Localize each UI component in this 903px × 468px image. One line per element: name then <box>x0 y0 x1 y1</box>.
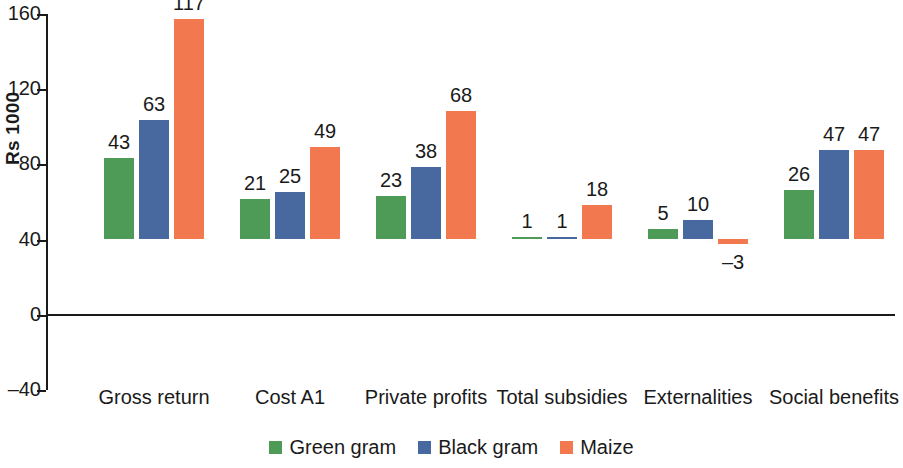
legend-swatch-icon <box>269 441 282 454</box>
bar-value-label: 23 <box>380 170 402 190</box>
x-axis-category-labels: Gross returnCost A1Private profitsTotal … <box>46 386 895 416</box>
bar-group: 510–3 <box>648 14 748 390</box>
bar-value-label: 10 <box>687 194 709 214</box>
bar-value-label: 63 <box>143 94 165 114</box>
bar-groups: 43631172125492338681118510–3264747 <box>46 14 895 390</box>
bar-value-label: 49 <box>314 121 336 141</box>
bar-rect <box>411 167 441 238</box>
bar: 23 <box>376 0 406 314</box>
bar-rect <box>240 199 270 238</box>
y-tick-label: 40 <box>0 228 41 251</box>
legend-item[interactable]: Black gram <box>418 436 538 459</box>
bar: 47 <box>854 0 884 314</box>
bar-group: 4363117 <box>104 14 204 390</box>
bar: 49 <box>310 0 340 314</box>
bar-rect <box>174 19 204 239</box>
bar: 43 <box>104 0 134 314</box>
x-category-label: Gross return <box>98 386 209 409</box>
bar-value-label: 38 <box>415 141 437 161</box>
bar-rect <box>104 158 134 239</box>
y-tick-label: –40 <box>0 378 41 401</box>
x-category-label: Private profits <box>365 386 487 409</box>
bar-value-label: 43 <box>108 132 130 152</box>
bar-value-label: 21 <box>244 173 266 193</box>
bar-chart: Rs 1000 –4004080120160 43631172125492338… <box>0 0 903 468</box>
bar: 38 <box>411 0 441 314</box>
legend-swatch-icon <box>418 441 431 454</box>
legend-item[interactable]: Green gram <box>269 436 396 459</box>
bar-value-label: 117 <box>173 0 205 13</box>
chart-legend: Green gramBlack gramMaize <box>0 436 903 459</box>
bar-rect <box>446 111 476 239</box>
bar-value-label: 18 <box>586 179 608 199</box>
legend-item[interactable]: Maize <box>560 436 633 459</box>
bar-group: 264747 <box>784 14 884 390</box>
legend-label: Black gram <box>438 436 538 459</box>
bar-value-label: 47 <box>823 124 845 144</box>
bar-value-label: 25 <box>279 166 301 186</box>
x-category-label: Social benefits <box>769 386 899 409</box>
bar-group: 1118 <box>512 14 612 390</box>
y-tick-label: 160 <box>0 2 41 25</box>
bar-group: 212549 <box>240 14 340 390</box>
plot-area: –4004080120160 4363117212549233868111851… <box>46 14 895 390</box>
bar: 18 <box>582 0 612 314</box>
bar-group: 233868 <box>376 14 476 390</box>
bar-rect <box>376 196 406 239</box>
bar: 5 <box>648 0 678 314</box>
bar-value-label: 26 <box>788 164 810 184</box>
bar-rect <box>310 147 340 239</box>
x-category-label: Externalities <box>644 386 753 409</box>
bar-rect <box>784 190 814 239</box>
x-category-label: Total subsidies <box>496 386 627 409</box>
bar: 117 <box>174 0 204 314</box>
bar: 68 <box>446 0 476 314</box>
bar-rect <box>275 192 305 239</box>
bar-rect <box>512 237 542 239</box>
legend-label: Maize <box>580 436 633 459</box>
x-category-label: Cost A1 <box>255 386 325 409</box>
bar-value-label: 5 <box>657 203 668 223</box>
bar-value-label: 47 <box>858 124 880 144</box>
legend-swatch-icon <box>560 441 573 454</box>
bar-rect <box>648 229 678 238</box>
bar: 1 <box>547 0 577 314</box>
bar-rect <box>683 220 713 239</box>
bar: –3 <box>718 0 748 314</box>
bar-rect <box>582 205 612 239</box>
bar: 25 <box>275 0 305 314</box>
bar: 47 <box>819 0 849 314</box>
bar-value-label: –3 <box>722 252 744 272</box>
y-tick-label: 120 <box>0 77 41 100</box>
bar-rect <box>854 150 884 238</box>
bar: 1 <box>512 0 542 314</box>
y-tick-label: 0 <box>0 303 41 326</box>
bar: 26 <box>784 0 814 314</box>
legend-label: Green gram <box>289 436 396 459</box>
bar-value-label: 68 <box>450 85 472 105</box>
bar-value-label: 1 <box>521 211 532 231</box>
bar-rect <box>819 150 849 238</box>
bar-value-label: 1 <box>556 211 567 231</box>
bar: 21 <box>240 0 270 314</box>
bar: 63 <box>139 0 169 314</box>
bar-rect <box>139 120 169 238</box>
bar: 10 <box>683 0 713 314</box>
bar-rect <box>718 239 748 245</box>
y-tick-label: 80 <box>0 152 41 175</box>
bar-rect <box>547 237 577 239</box>
